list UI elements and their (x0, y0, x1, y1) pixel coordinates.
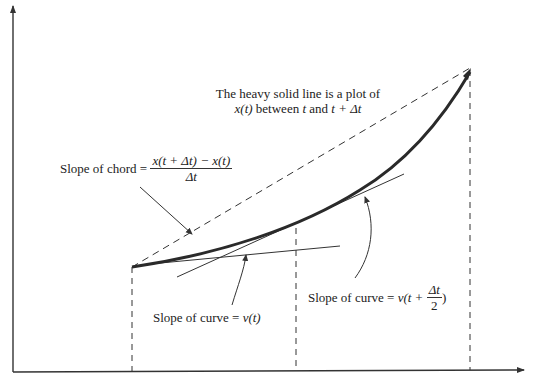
chord-slope-label: Slope of chord = x(t + Δt) − x(t) Δt (60, 153, 232, 184)
curve-slope-mid-text: Slope of curve = (308, 290, 398, 305)
plot-description: The heavy solid line is a plot of x(t) b… (178, 86, 418, 116)
text-and: and (306, 101, 331, 116)
chord-slope-fraction: x(t + Δt) − x(t) Δt (150, 153, 232, 184)
curve-slope-t-text: Slope of curve = (153, 310, 243, 325)
mid-denominator: 2 (427, 298, 442, 313)
tangent-t-pointer-arrow (232, 255, 246, 305)
curve-slope-at-t-label: Slope of curve = v(t) (153, 310, 261, 325)
var-t: (t) (240, 101, 252, 116)
text-between: between (253, 101, 303, 116)
chord-denominator: Δt (150, 169, 232, 184)
diagram-canvas (0, 0, 538, 386)
plot-description-line1: The heavy solid line is a plot of (178, 86, 418, 101)
chord-slope-text: Slope of chord = (60, 161, 147, 176)
x-axis (13, 370, 524, 372)
curve-slope-t-value: v(t) (243, 310, 261, 325)
curve-slope-mid-fraction: Δt 2 (427, 282, 442, 313)
curve-slope-mid-suffix: ) (442, 290, 446, 305)
curve-slope-at-midpoint-label: Slope of curve = v(t + Δt 2 ) (308, 282, 446, 313)
chord-pointer-arrow (140, 187, 192, 234)
chord-numerator: x(t + Δt) − x(t) (150, 153, 232, 169)
mid-numerator: Δt (427, 282, 442, 298)
plot-description-line2: x(t) between t and t + Δt (178, 101, 418, 116)
tangent-mid-pointer-arrow (355, 197, 371, 278)
var-t-plus-dt: t + Δt (331, 101, 361, 116)
curve-slope-mid-prefix: v(t + (398, 290, 427, 305)
